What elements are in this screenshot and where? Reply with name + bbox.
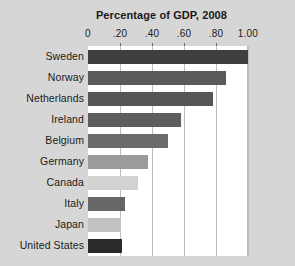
category-label: Ireland xyxy=(51,109,84,130)
bar-row xyxy=(88,193,248,214)
x-tick-label: .80 xyxy=(209,28,224,39)
bar xyxy=(88,239,122,253)
bar xyxy=(88,176,138,190)
bar xyxy=(88,50,248,64)
bar-chart: Percentage of GDP, 2008 0.20.40.60.801.0… xyxy=(0,0,295,266)
chart-title: Percentage of GDP, 2008 xyxy=(0,9,295,21)
bar-row xyxy=(88,109,248,130)
x-tick-label: 0 xyxy=(85,28,91,39)
bar-row xyxy=(88,88,248,109)
x-tick-label: .40 xyxy=(145,28,160,39)
category-label: Sweden xyxy=(45,46,84,67)
bar-row xyxy=(88,67,248,88)
category-label: Netherlands xyxy=(26,88,84,109)
plot-area xyxy=(88,46,248,256)
category-label: Italy xyxy=(64,193,84,214)
bar-row xyxy=(88,172,248,193)
category-label: Belgium xyxy=(45,130,84,151)
x-tick-label: .60 xyxy=(177,28,192,39)
category-label: Canada xyxy=(47,172,84,193)
bar xyxy=(88,155,148,169)
bar-row xyxy=(88,46,248,67)
category-label: Norway xyxy=(48,67,84,88)
bar xyxy=(88,197,125,211)
category-label: Japan xyxy=(55,214,84,235)
bar-row xyxy=(88,235,248,256)
x-tick-label: .20 xyxy=(113,28,128,39)
bar xyxy=(88,113,181,127)
x-tick-label: 1.00 xyxy=(238,28,258,39)
bar-row xyxy=(88,214,248,235)
bar-rows xyxy=(88,46,248,256)
bar-row xyxy=(88,130,248,151)
bar xyxy=(88,92,213,106)
category-labels: SwedenNorwayNetherlandsIrelandBelgiumGer… xyxy=(0,46,84,256)
bar xyxy=(88,218,121,232)
bar-row xyxy=(88,151,248,172)
bar xyxy=(88,71,226,85)
category-label: Germany xyxy=(40,151,84,172)
bar xyxy=(88,134,168,148)
gridline xyxy=(248,46,249,256)
x-axis-tick-labels: 0.20.40.60.801.00 xyxy=(88,28,248,43)
category-label: United States xyxy=(20,235,84,256)
